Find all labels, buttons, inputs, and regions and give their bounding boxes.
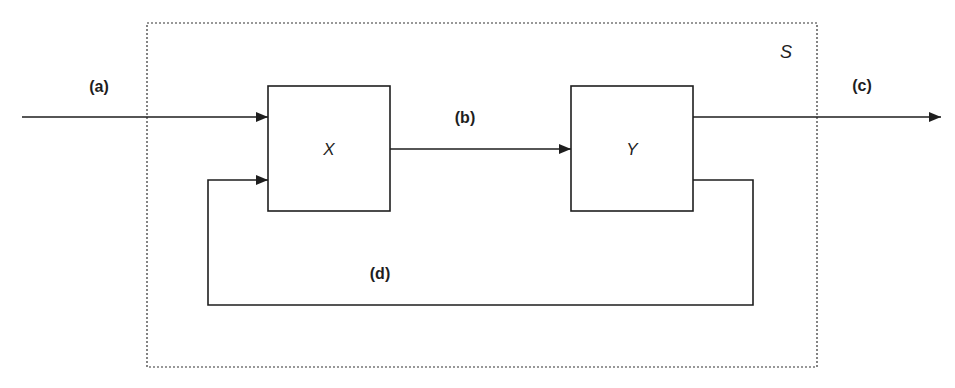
- block-y-label: Y: [626, 141, 637, 158]
- signal-b-label: (b): [455, 110, 475, 126]
- signal-c-label: (c): [852, 78, 872, 94]
- system-label-s: S: [780, 43, 792, 61]
- block-diagram: [0, 0, 955, 388]
- system-boundary: [147, 23, 817, 367]
- block-x-label: X: [323, 141, 334, 158]
- signal-a-label: (a): [89, 79, 109, 95]
- signal-d-label: (d): [370, 266, 390, 282]
